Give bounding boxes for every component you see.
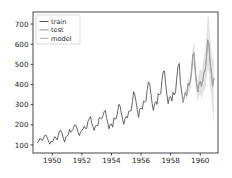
y-tick-label-100: 100: [15, 141, 29, 150]
y-tick-label-400: 400: [15, 80, 29, 89]
x-tick-label-1952: 1952: [73, 156, 91, 165]
y-tick-label-500: 500: [15, 60, 29, 69]
chart-legend[interactable]: traintestmodel: [36, 15, 80, 44]
x-tick-label-1950: 1950: [43, 156, 62, 165]
y-tick-label-300: 300: [15, 100, 29, 109]
x-tick-label-1956: 1956: [132, 156, 151, 165]
legend-label-model[interactable]: model: [51, 35, 72, 43]
x-tick-label-1958: 1958: [161, 156, 180, 165]
figure-canvas: 100200300400500600700 195019521954195619…: [0, 0, 232, 178]
y-tick-label-200: 200: [15, 120, 29, 129]
legend-label-train[interactable]: train: [51, 18, 66, 26]
y-tick-label-600: 600: [15, 40, 29, 49]
line-chart: 100200300400500600700 195019521954195619…: [0, 0, 232, 178]
y-tick-label-700: 700: [15, 20, 29, 29]
x-tick-label-1960: 1960: [191, 156, 210, 165]
legend-label-test[interactable]: test: [51, 26, 64, 34]
x-tick-label-1954: 1954: [102, 156, 121, 165]
